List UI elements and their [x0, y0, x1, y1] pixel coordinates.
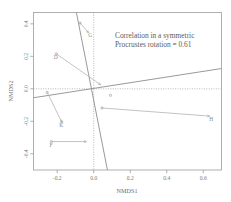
y-tick-label: -0.4 — [24, 149, 30, 158]
x-tick-label: 0.2 — [127, 175, 134, 181]
point-label-k: K — [59, 122, 63, 128]
point-label-g: G — [88, 32, 92, 38]
point-label-f: F — [49, 142, 52, 148]
x-tick-label: 0.4 — [163, 175, 170, 181]
x-axis-title: NMDS1 — [117, 187, 138, 194]
annotation-line-2: Procrustes rotation = 0.61 — [115, 40, 192, 49]
y-tick-label: -0.2 — [24, 117, 30, 126]
y-tick-label: 0.2 — [24, 53, 30, 60]
y-axis-title: NMDS2 — [7, 81, 14, 102]
x-tick-label: -0.2 — [53, 175, 62, 181]
point-label-d: D — [54, 54, 58, 60]
point-label-h: H — [209, 116, 213, 122]
x-tick-label: 0.0 — [90, 175, 97, 181]
y-tick-label: 0.0 — [24, 85, 30, 92]
procrustes-rotation-plot: GDKFH -0.20.00.20.40.6 -0.4-0.20.00.20.4… — [0, 0, 231, 202]
chart-canvas: GDKFH -0.20.00.20.40.6 -0.4-0.20.00.20.4… — [0, 0, 231, 202]
annotation-line-1: Correlation in a symmetric — [115, 31, 195, 40]
x-tick-label: 0.6 — [200, 175, 207, 181]
y-tick-label: 0.4 — [24, 20, 30, 27]
